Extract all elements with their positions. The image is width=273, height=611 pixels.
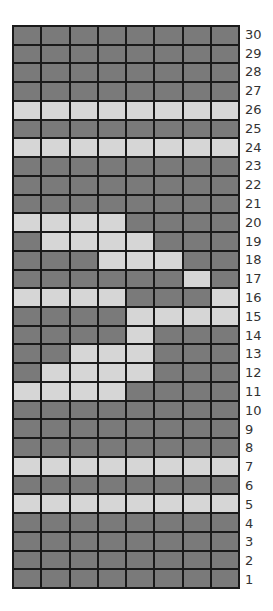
chart-cell [14, 271, 40, 288]
chart-cell [99, 177, 125, 194]
chart-cell [14, 196, 40, 213]
chart-cell [14, 177, 40, 194]
chart-cell [71, 252, 97, 269]
chart-cell [155, 327, 181, 344]
chart-cell [184, 46, 210, 63]
chart-cell [71, 46, 97, 63]
chart-cell [99, 121, 125, 138]
chart-cell [71, 327, 97, 344]
chart-cell [184, 158, 210, 175]
chart-cell [99, 214, 125, 231]
chart-cell [42, 102, 68, 119]
chart-cell [14, 308, 40, 325]
chart-cell [99, 46, 125, 63]
chart-cell [71, 402, 97, 419]
chart-cell [155, 570, 181, 587]
chart-cell [184, 495, 210, 512]
chart-cell [42, 308, 68, 325]
chart-cell [99, 383, 125, 400]
chart-cell [155, 64, 181, 81]
chart-cell [155, 83, 181, 100]
chart-cell [212, 177, 238, 194]
chart-cell [14, 495, 40, 512]
chart-cell [155, 552, 181, 569]
colorwork-chart-grid [12, 25, 240, 589]
chart-cell [71, 196, 97, 213]
chart-cell [14, 570, 40, 587]
chart-cell [99, 345, 125, 362]
chart-cell [99, 102, 125, 119]
chart-cell [42, 495, 68, 512]
chart-cell [184, 214, 210, 231]
chart-cell [14, 83, 40, 100]
chart-cell [184, 533, 210, 550]
chart-cell [212, 345, 238, 362]
chart-cell [212, 289, 238, 306]
chart-cell [42, 214, 68, 231]
chart-cell [71, 345, 97, 362]
row-label: 6 [245, 476, 273, 495]
chart-cell [212, 46, 238, 63]
row-label: 21 [245, 194, 273, 213]
chart-cell [212, 439, 238, 456]
chart-cell [71, 420, 97, 437]
chart-cell [212, 514, 238, 531]
chart-cell [212, 420, 238, 437]
chart-cell [71, 495, 97, 512]
chart-cell [71, 233, 97, 250]
row-label: 20 [245, 213, 273, 232]
chart-cell [127, 477, 153, 494]
chart-cell [155, 271, 181, 288]
chart-cell [14, 439, 40, 456]
chart-cell [155, 27, 181, 44]
chart-cell [42, 345, 68, 362]
chart-cell [14, 514, 40, 531]
chart-cell [127, 83, 153, 100]
chart-cell [155, 139, 181, 156]
row-label: 29 [245, 44, 273, 63]
row-label: 30 [245, 25, 273, 44]
chart-cell [155, 252, 181, 269]
chart-cell [155, 420, 181, 437]
chart-cell [42, 402, 68, 419]
chart-cell [71, 383, 97, 400]
chart-cell [42, 420, 68, 437]
row-label: 4 [245, 514, 273, 533]
row-label: 12 [245, 363, 273, 382]
row-label: 18 [245, 251, 273, 270]
chart-cell [99, 477, 125, 494]
chart-cell [155, 102, 181, 119]
chart-cell [212, 121, 238, 138]
chart-cell [212, 477, 238, 494]
chart-cell [71, 439, 97, 456]
chart-cell [184, 308, 210, 325]
chart-cell [99, 139, 125, 156]
chart-cell [184, 177, 210, 194]
chart-cell [127, 177, 153, 194]
chart-cell [184, 252, 210, 269]
chart-cell [99, 289, 125, 306]
chart-cell [42, 439, 68, 456]
chart-cell [127, 458, 153, 475]
chart-cell [184, 196, 210, 213]
chart-cell [99, 495, 125, 512]
chart-cell [14, 102, 40, 119]
chart-cell [155, 46, 181, 63]
row-label: 5 [245, 495, 273, 514]
row-label: 25 [245, 119, 273, 138]
chart-cell [71, 177, 97, 194]
chart-cell [184, 102, 210, 119]
chart-cell [71, 308, 97, 325]
chart-cell [42, 533, 68, 550]
row-label: 7 [245, 457, 273, 476]
chart-cell [14, 477, 40, 494]
chart-cell [42, 271, 68, 288]
chart-cell [14, 252, 40, 269]
chart-cell [71, 458, 97, 475]
chart-cell [127, 327, 153, 344]
chart-cell [14, 139, 40, 156]
row-label: 23 [245, 157, 273, 176]
chart-cell [184, 552, 210, 569]
chart-cell [184, 83, 210, 100]
chart-cell [127, 402, 153, 419]
